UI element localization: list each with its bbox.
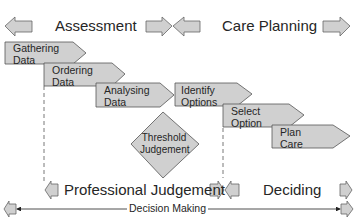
- axis-end-left-icon: [4, 201, 16, 217]
- step-label-line1: Ordering: [52, 64, 93, 76]
- step-label-line1: Plan: [280, 126, 303, 138]
- axis-end-right-icon: [341, 201, 353, 217]
- arrow-right-small-icon: [340, 181, 352, 199]
- step-label-line1: Select: [231, 105, 262, 117]
- step-gathering-data: Gathering Data: [13, 42, 59, 66]
- step-label-line2: Data: [52, 76, 93, 88]
- step-plan-care: Plan Care: [280, 126, 303, 150]
- step-select-option: Select Option: [231, 105, 262, 129]
- step-label-line2: Care: [280, 138, 303, 150]
- step-ordering-data: Ordering Data: [52, 64, 93, 88]
- step-label-line2: Data: [104, 96, 150, 108]
- phase-care-planning: Care Planning: [222, 17, 317, 34]
- phase-professional-judgement: Professional Judgement: [64, 181, 225, 198]
- decision-making-label: Decision Making: [127, 202, 208, 214]
- step-identify-options: Identify Options: [181, 84, 217, 108]
- step-label-line1: Gathering: [13, 42, 59, 54]
- diamond-label-line1: Threshold: [140, 132, 188, 144]
- phase-assessment: Assessment: [55, 17, 137, 34]
- diamond-label-line2: Judgement: [140, 144, 188, 156]
- arrow-right-icon: [323, 17, 350, 36]
- step-analysing-data: Analysing Data: [104, 84, 150, 108]
- step-label-line2: Options: [181, 96, 217, 108]
- arrow-left-small-icon: [45, 181, 58, 199]
- step-label-line2: Option: [231, 117, 262, 129]
- step-label-line1: Identify: [181, 84, 217, 96]
- step-label-line1: Analysing: [104, 84, 150, 96]
- threshold-judgement-label: Threshold Judgement: [140, 132, 188, 156]
- arrow-left-icon: [5, 17, 32, 36]
- phase-deciding: Deciding: [263, 181, 321, 198]
- converging-arrows-icon: [146, 17, 200, 36]
